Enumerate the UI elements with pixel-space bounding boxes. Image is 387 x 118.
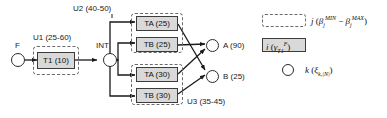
node-a-label: A (90) — [223, 42, 244, 50]
legend-group-var2-sup: MAX — [352, 15, 364, 21]
legend-group-var1-sup: MIN — [325, 15, 336, 21]
node-f-label: F — [15, 42, 20, 50]
node-int-label: INT — [96, 42, 109, 50]
node-b[interactable] — [206, 70, 219, 83]
group-u2-label: U2 (40-50) — [73, 5, 111, 13]
task-tb30[interactable]: TB (30) — [136, 88, 178, 103]
node-b-label: B (25) — [223, 73, 245, 81]
legend-group-symbol — [262, 14, 306, 27]
legend-task-paren-close: ) — [287, 42, 290, 52]
task-tb25[interactable]: TB (25) — [136, 37, 178, 52]
legend-task-var1-sub: T1 — [277, 48, 283, 54]
node-a[interactable] — [206, 39, 219, 52]
legend-group-minus: − — [336, 16, 346, 26]
task-ta30[interactable]: TA (30) — [136, 67, 178, 82]
legend-group-text: j (βjMIN − βjMAX) — [311, 15, 367, 28]
legend-node-text: k (ξk,|N|) — [305, 66, 333, 77]
node-f[interactable] — [11, 53, 25, 67]
diagram-canvas: U1 (25-60) U2 (40-50) U3 (35-45) F T1 (1… — [0, 0, 387, 118]
task-t1[interactable]: T1 (10) — [37, 52, 75, 69]
legend-node-var1-sub: k,|N| — [318, 71, 329, 77]
legend-task-text: i (γT1F) — [266, 41, 290, 54]
group-u1-label: U1 (25-60) — [33, 34, 71, 42]
legend-group-paren-close: ) — [364, 16, 367, 26]
legend-node-symbol — [282, 64, 294, 76]
task-ta25[interactable]: TA (25) — [136, 16, 178, 31]
legend-group-var1-sub: j — [323, 22, 325, 28]
legend-group-var2-sub: j — [350, 22, 352, 28]
node-int[interactable] — [103, 53, 117, 67]
legend-node-paren-close: ) — [330, 65, 333, 75]
group-u3-label: U3 (35-45) — [187, 98, 225, 106]
